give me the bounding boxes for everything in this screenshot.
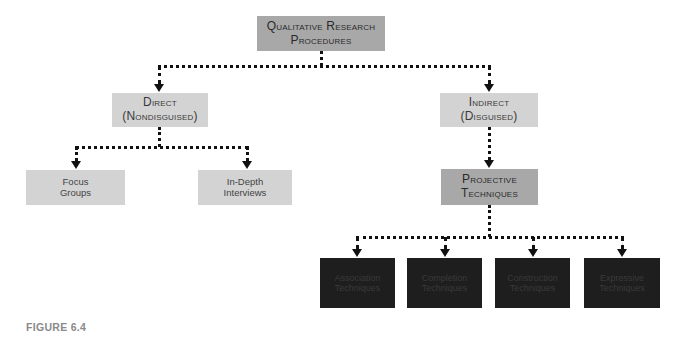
node-expressive-techniques: Expressive Techniques (584, 258, 660, 308)
arrow-down-icon (617, 249, 627, 257)
connector-root-down (320, 51, 323, 66)
connector-to-in-depth (246, 147, 249, 161)
node-label-line2: Interviews (224, 188, 267, 199)
arrow-down-icon (242, 161, 252, 169)
node-direct: Direct (Nondisguised) (112, 93, 208, 127)
node-label-line1: Projective (461, 173, 518, 187)
node-label-line2: Techniques (334, 283, 380, 293)
connector-projective-children-horizontal (356, 236, 624, 239)
arrow-down-icon (154, 84, 164, 92)
node-construction-techniques: Construction Techniques (495, 258, 570, 308)
connector-projective-down (488, 205, 491, 237)
node-label-line1: In-Depth (224, 177, 267, 188)
node-label-line1: Expressive (599, 273, 645, 283)
node-label-line2: (Disguised) (460, 110, 517, 124)
node-label-line2: Techniques (422, 283, 468, 293)
node-indirect: Indirect (Disguised) (440, 93, 538, 127)
connector-to-association (356, 237, 359, 249)
node-projective-techniques: Projective Techniques (441, 169, 538, 205)
node-label-line1: Direct (122, 96, 197, 110)
node-association-techniques: Association Techniques (320, 258, 395, 308)
connector-direct-children-horizontal (75, 146, 249, 149)
node-label-line2: Techniques (599, 283, 645, 293)
node-label-line1: Indirect (460, 96, 517, 110)
node-label-line1: Construction (507, 273, 558, 283)
node-qualitative-research-procedures: Qualitative Research Procedures (257, 16, 385, 51)
node-focus-groups: Focus Groups (26, 170, 125, 205)
connector-direct-down (158, 127, 161, 147)
connector-to-construction (532, 237, 535, 249)
connector-to-focus-groups (75, 147, 78, 161)
connector-to-direct (158, 66, 161, 84)
connector-to-expressive (621, 237, 624, 249)
node-label-line2: Groups (60, 188, 91, 199)
node-completion-techniques: Completion Techniques (407, 258, 482, 308)
node-label-line2: Techniques (461, 187, 518, 201)
node-label-line1: Focus (60, 177, 91, 188)
arrow-down-icon (484, 84, 494, 92)
node-label-line2: Procedures (267, 34, 376, 48)
node-label-line1: Association (334, 273, 380, 283)
node-in-depth-interviews: In-Depth Interviews (198, 170, 292, 205)
arrow-down-icon (528, 249, 538, 257)
node-label-line2: Techniques (507, 283, 558, 293)
arrow-down-icon (484, 160, 494, 168)
connector-to-completion (444, 237, 447, 249)
node-label-line1: Completion (422, 273, 468, 283)
node-label-line2: (Nondisguised) (122, 110, 197, 124)
figure-caption: FIGURE 6.4 (26, 321, 86, 333)
connector-level1-horizontal (158, 65, 491, 68)
connector-indirect-to-projective (488, 127, 491, 160)
arrow-down-icon (440, 249, 450, 257)
node-label-line1: Qualitative Research (267, 20, 376, 34)
connector-to-indirect (488, 66, 491, 84)
arrow-down-icon (71, 161, 81, 169)
arrow-down-icon (352, 249, 362, 257)
